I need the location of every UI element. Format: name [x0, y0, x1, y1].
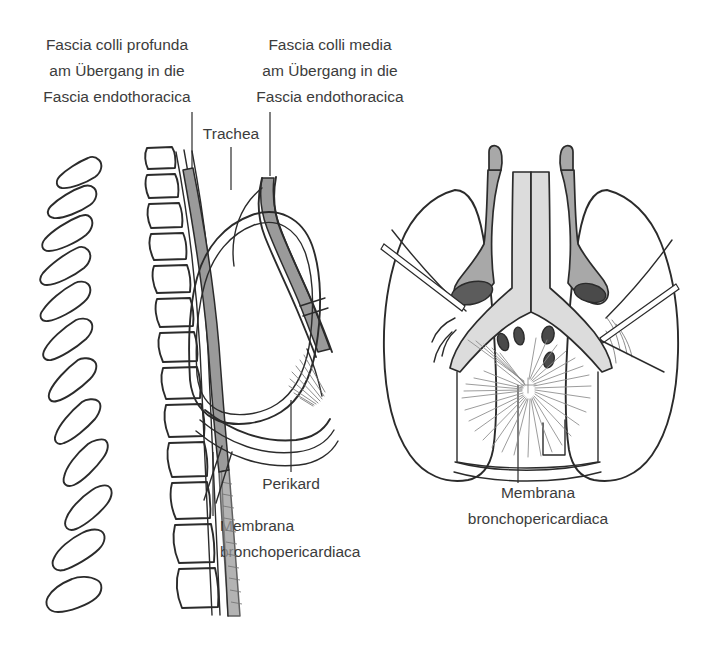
membrana-right-line2: bronchopericardiaca	[468, 510, 609, 527]
fascia-colli-profunda-line2: am Übergang in die	[49, 62, 184, 79]
fascia-colli-profunda-line1: Fascia colli profunda	[46, 36, 189, 53]
fascia-colli-profunda-line3: Fascia endothoracica	[43, 88, 191, 105]
anatomy-figure: Fascia colli profunda am Übergang in die…	[0, 0, 726, 657]
bronchus-right-stub	[560, 146, 573, 170]
anatomy-illustration: Fascia colli profunda am Übergang in die…	[0, 0, 726, 657]
membrana-left-line2: bronchopericardiaca	[220, 543, 361, 560]
bronchus-left-stub	[489, 146, 502, 170]
label-perikard: Perikard	[262, 475, 320, 492]
label-fascia-colli-profunda: Fascia colli profunda am Übergang in die…	[43, 36, 191, 105]
membrana-right-line1: Membrana	[501, 484, 575, 501]
fascia-colli-media-line3: Fascia endothoracica	[256, 88, 404, 105]
label-fascia-colli-media: Fascia colli media am Übergang in die Fa…	[256, 36, 404, 105]
label-trachea: Trachea	[203, 125, 260, 142]
fascia-colli-media-line1: Fascia colli media	[268, 36, 392, 53]
fascia-colli-media-line2: am Übergang in die	[262, 62, 397, 79]
